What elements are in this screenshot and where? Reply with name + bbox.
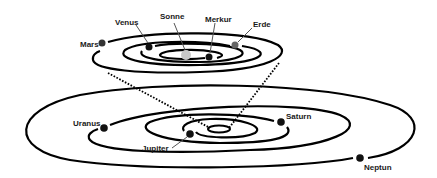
sun-sonne[interactable]	[181, 50, 191, 60]
leader-merkur	[210, 23, 215, 53]
label-merkur: Merkur	[205, 15, 232, 24]
outer-system: Uranus Jupiter Saturn Neptun	[26, 63, 414, 172]
planet-erde[interactable]	[232, 42, 239, 49]
label-venus: Venus	[115, 18, 139, 27]
planet-jupiter[interactable]	[186, 130, 194, 138]
label-uranus: Uranus	[73, 119, 101, 128]
orbit-merkur	[160, 50, 222, 59]
label-erde: Erde	[253, 20, 271, 29]
label-neptun: Neptun	[364, 163, 392, 172]
planet-saturn[interactable]	[277, 118, 285, 126]
planet-mars[interactable]	[99, 40, 106, 47]
label-mars: Mars	[80, 40, 99, 49]
planet-neptun[interactable]	[356, 154, 364, 162]
leader-venus	[136, 25, 148, 43]
inner-system: Mars Venus Sonne Merkur Erde	[80, 12, 282, 73]
label-sonne: Sonne	[160, 12, 185, 21]
label-jupiter: Jupiter	[142, 144, 169, 153]
orbit-inner-ring	[208, 126, 230, 133]
planet-uranus[interactable]	[100, 124, 108, 132]
leader-sonne	[174, 23, 185, 50]
orbit-jupiter	[183, 119, 257, 138]
projection-line-right	[229, 63, 279, 128]
planet-venus[interactable]	[146, 44, 153, 51]
label-saturn: Saturn	[286, 112, 311, 121]
solar-system-diagram: Uranus Jupiter Saturn Neptun Mars Venus …	[0, 0, 437, 178]
planet-merkur[interactable]	[206, 54, 213, 61]
